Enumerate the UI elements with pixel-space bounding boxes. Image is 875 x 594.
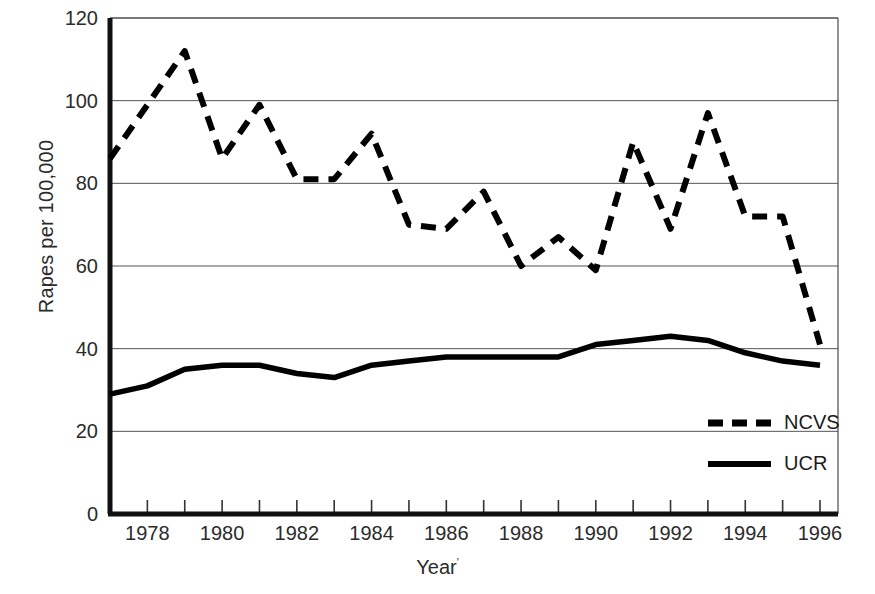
series-line-ucr xyxy=(110,336,820,394)
y-axis-tick-label: 80 xyxy=(36,172,98,195)
y-axis-title: Rapes per 100,000 xyxy=(35,77,58,377)
x-axis-tick-label: 1986 xyxy=(411,522,481,545)
legend-swatches xyxy=(708,423,771,464)
x-axis-tick-label: 1992 xyxy=(636,522,706,545)
legend-label-ncvs: NCVS xyxy=(784,411,840,434)
x-axis-title: Year′ xyxy=(0,556,875,579)
x-axis-title-footnote-marker: ′ xyxy=(457,556,459,568)
data-series-layer xyxy=(110,51,820,394)
x-axis-tick-label: 1996 xyxy=(785,522,855,545)
y-axis-tick-label: 120 xyxy=(36,7,98,30)
plot-area xyxy=(0,0,875,594)
y-axis-tick-label: 60 xyxy=(36,255,98,278)
y-axis-tick-label: 100 xyxy=(36,89,98,112)
x-axis-tick-label: 1990 xyxy=(561,522,631,545)
x-axis-tick-label: 1994 xyxy=(710,522,780,545)
series-line-ncvs xyxy=(110,51,820,344)
y-axis-tick-label: 0 xyxy=(36,503,98,526)
y-axis-tick-label: 20 xyxy=(36,420,98,443)
x-axis-tick-label: 1982 xyxy=(262,522,332,545)
x-axis-tick-label: 1978 xyxy=(112,522,182,545)
x-axis-tick-marks xyxy=(110,500,820,512)
gridlines xyxy=(110,18,838,431)
x-axis-tick-label: 1988 xyxy=(486,522,556,545)
y-axis-tick-label: 40 xyxy=(36,337,98,360)
legend-label-ucr: UCR xyxy=(784,452,827,475)
x-axis-tick-label: 1984 xyxy=(337,522,407,545)
chart-figure: Rapes per 100,000 Year′ 020406080100120 … xyxy=(0,0,875,594)
x-axis-tick-label: 1980 xyxy=(187,522,257,545)
x-axis-title-text: Year xyxy=(416,556,456,578)
